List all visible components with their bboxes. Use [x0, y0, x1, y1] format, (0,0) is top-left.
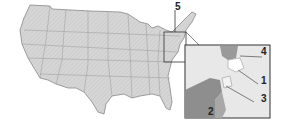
map-label-5: 5 — [175, 2, 181, 12]
map-label-4: 4 — [261, 47, 267, 57]
us-map: 5 4 1 3 2 — [0, 0, 281, 126]
map-label-2: 2 — [208, 107, 214, 117]
map-label-1: 1 — [261, 76, 267, 86]
us-map-graphic — [0, 0, 281, 126]
map-label-3: 3 — [261, 94, 267, 104]
inset-map — [185, 45, 270, 118]
